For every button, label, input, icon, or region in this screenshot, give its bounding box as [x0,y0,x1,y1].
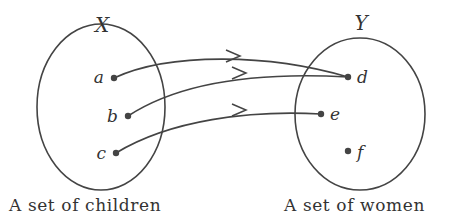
label-e: e [330,104,340,124]
label-b: b [107,106,118,126]
set-x-name: X [93,13,110,37]
arrowhead-b-d [232,67,246,79]
arrowhead-c-e [232,104,246,116]
point-d [345,74,351,80]
caption-women: A set of women [283,195,425,215]
arrow-c-to-e [116,113,321,153]
set-x-ellipse [37,24,165,190]
point-f [345,148,351,154]
label-a: a [94,67,104,87]
caption-children: A set of children [8,195,161,215]
label-c: c [96,143,106,163]
point-a [111,75,117,81]
point-b [125,113,131,119]
point-e [318,111,324,117]
point-c [113,150,119,156]
arrow-b-to-d [128,76,348,116]
label-d: d [357,67,368,87]
set-y-name: Y [354,11,369,35]
label-f: f [355,142,366,162]
mapping-diagram: X Y a b c d e f A set of children A set … [0,0,463,217]
